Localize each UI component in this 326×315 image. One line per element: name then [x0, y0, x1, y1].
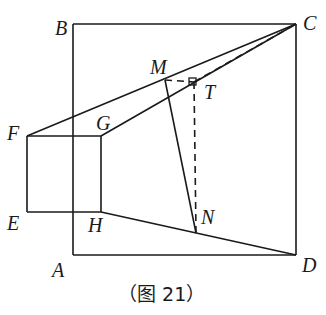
segment-TN-dashed: [194, 82, 196, 233]
label-A: A: [50, 259, 65, 281]
label-H: H: [87, 214, 104, 236]
label-D: D: [301, 254, 317, 276]
segment-HD: [101, 212, 296, 255]
label-T: T: [204, 81, 217, 103]
label-E: E: [6, 212, 19, 234]
label-G: G: [96, 112, 111, 134]
segment-FC: [27, 24, 296, 136]
geometry-figure: B C A D F G E H M T N （图 21）: [0, 0, 326, 315]
label-C: C: [303, 12, 317, 34]
label-N: N: [200, 206, 216, 228]
label-B: B: [55, 17, 67, 39]
label-F: F: [6, 122, 20, 144]
label-M: M: [149, 56, 168, 78]
figure-caption: （图 21）: [118, 283, 205, 305]
segment-MN: [165, 80, 196, 233]
